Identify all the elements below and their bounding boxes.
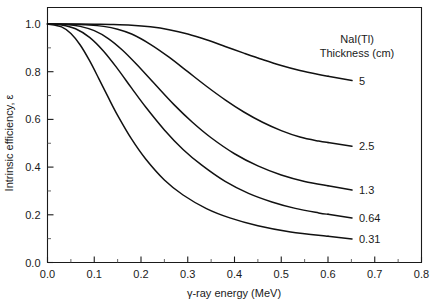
x-tick-label: 0.5 <box>274 268 289 280</box>
series-label-1-3: 1.3 <box>359 184 374 196</box>
x-tick-label: 0.0 <box>40 268 55 280</box>
series-label-5: 5 <box>359 75 365 87</box>
y-tick-label: 0.6 <box>25 113 40 125</box>
x-tick-label: 0.4 <box>227 268 242 280</box>
x-tick-label: 0.1 <box>87 268 102 280</box>
series-label-0-64: 0.64 <box>359 212 380 224</box>
series-label-0-31: 0.31 <box>359 233 380 245</box>
legend-title-line1: NaI(Tl) <box>340 33 374 45</box>
y-tick-label: 0.2 <box>25 209 40 221</box>
series-label-2-5: 2.5 <box>359 140 374 152</box>
x-axis-title: γ-ray energy (MeV) <box>187 287 281 299</box>
y-tick-label: 0.8 <box>25 66 40 78</box>
x-tick-label: 0.3 <box>180 268 195 280</box>
x-tick-label: 0.2 <box>133 268 148 280</box>
y-tick-label: 1.0 <box>25 18 40 30</box>
efficiency-line-chart: 0.00.10.20.30.40.50.60.70.80.00.20.40.60… <box>0 0 442 302</box>
legend-title-line2: Thickness (cm) <box>320 47 395 59</box>
x-tick-label: 0.6 <box>320 268 335 280</box>
y-axis-title: Intrinsic efficiency, ε <box>3 95 15 192</box>
x-tick-label: 0.7 <box>367 268 382 280</box>
chart-figure: 0.00.10.20.30.40.50.60.70.80.00.20.40.60… <box>0 0 442 302</box>
y-tick-label: 0.4 <box>25 161 40 173</box>
x-tick-label: 0.8 <box>414 268 429 280</box>
y-tick-label: 0.0 <box>25 257 40 269</box>
